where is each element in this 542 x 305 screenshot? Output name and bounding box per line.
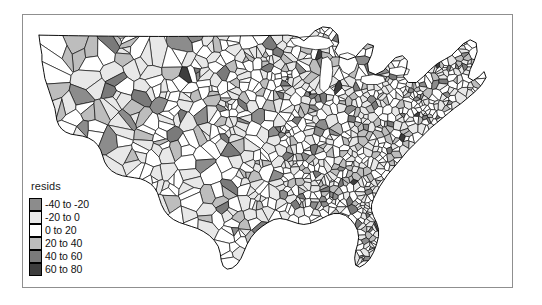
county-polygon xyxy=(474,68,490,79)
county-polygon xyxy=(97,15,145,38)
county-polygon xyxy=(348,115,356,122)
great-lake-polygon xyxy=(361,75,386,85)
legend-label: 60 to 80 xyxy=(45,263,82,276)
legend-entry: 0 to 20 xyxy=(29,224,129,237)
legend-entry-list: -40 to -20-20 to 00 to 2020 to 4040 to 6… xyxy=(29,198,129,276)
county-polygon xyxy=(409,141,421,153)
legend-label: 0 to 20 xyxy=(45,224,76,237)
county-polygon xyxy=(253,58,262,70)
legend-swatch xyxy=(29,224,42,237)
map-legend: resids -40 to -20-20 to 00 to 2020 to 40… xyxy=(29,180,129,276)
legend-label: 40 to 60 xyxy=(45,250,82,263)
legend-label: -20 to 0 xyxy=(45,211,80,224)
county-polygon xyxy=(85,27,98,57)
county-polygon xyxy=(436,118,449,130)
legend-swatch xyxy=(29,237,42,250)
legend-title: resids xyxy=(31,180,129,193)
figure: resids -40 to -20-20 to 00 to 2020 to 40… xyxy=(0,0,542,305)
legend-entry: 20 to 40 xyxy=(29,237,129,250)
legend-swatch xyxy=(29,263,42,276)
legend-swatch xyxy=(29,211,42,224)
legend-label: -40 to -20 xyxy=(45,198,89,211)
county-polygon xyxy=(209,85,212,92)
county-polygon xyxy=(394,161,407,174)
legend-label: 20 to 40 xyxy=(45,237,82,250)
legend-swatch xyxy=(29,250,42,263)
legend-entry: 40 to 60 xyxy=(29,250,129,263)
county-polygon xyxy=(253,149,260,161)
legend-entry: -20 to 0 xyxy=(29,211,129,224)
legend-swatch xyxy=(29,198,42,211)
county-polygon xyxy=(127,175,152,204)
county-polygon xyxy=(306,19,321,34)
legend-entry: 60 to 80 xyxy=(29,263,129,276)
legend-entry: -40 to -20 xyxy=(29,198,129,211)
county-polygon xyxy=(287,71,292,75)
county-polygon xyxy=(454,35,465,47)
county-polygon xyxy=(381,170,395,184)
county-polygon xyxy=(373,193,385,205)
